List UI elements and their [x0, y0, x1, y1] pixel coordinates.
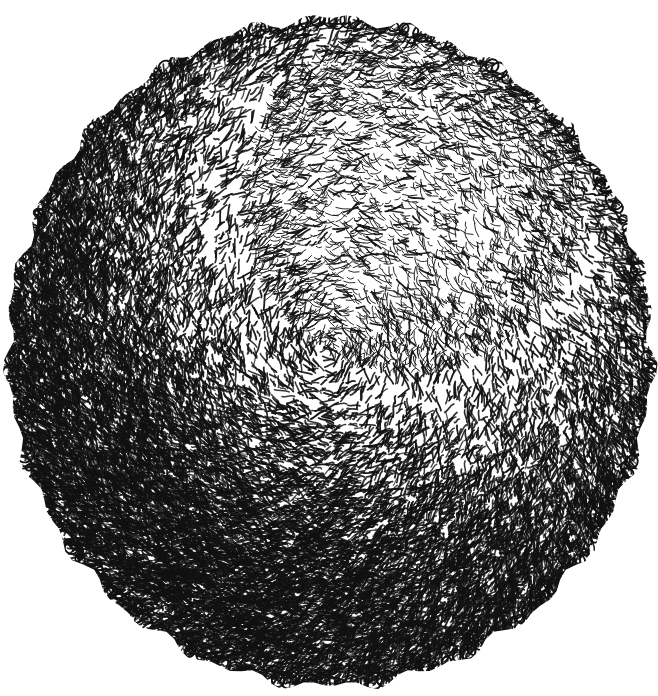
- artboard: Scribbled Sphere pen-and-ink scribble ha…: [0, 0, 658, 696]
- scribbled-sphere-drawing: [0, 0, 658, 696]
